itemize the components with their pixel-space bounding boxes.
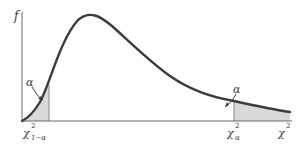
right-crit-sup: 2 bbox=[235, 123, 239, 130]
x-axis-label: χ2 bbox=[278, 128, 285, 139]
x-axis-base: χ bbox=[278, 127, 285, 140]
right-crit-base: χ bbox=[227, 127, 234, 140]
x-axis-sup: 2 bbox=[286, 123, 290, 130]
right-alpha-label: α bbox=[233, 84, 240, 95]
density-curve bbox=[22, 15, 290, 121]
y-axis-label: f bbox=[14, 10, 18, 22]
left-crit-base: χ bbox=[23, 127, 30, 140]
right-crit-sub: α bbox=[235, 135, 240, 142]
left-critical-value-label: χ21−α bbox=[23, 128, 30, 139]
chi-square-figure bbox=[0, 0, 303, 146]
right-alpha-arrowhead bbox=[225, 102, 229, 107]
left-alpha-label: α bbox=[26, 77, 33, 88]
left-crit-sup: 2 bbox=[31, 123, 35, 130]
right-critical-value-label: χ2α bbox=[227, 128, 234, 139]
left-crit-sub: 1−α bbox=[31, 135, 46, 142]
